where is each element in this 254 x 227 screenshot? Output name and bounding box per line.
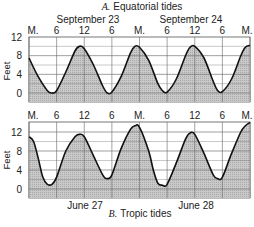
date-label: September 24: [160, 14, 223, 25]
date-label: June 27: [67, 200, 103, 211]
chart-a-title: A.Equatorial tides: [101, 1, 183, 12]
chart-b-y-label: Feet: [1, 150, 12, 169]
y-tick-label: 0: [16, 184, 22, 195]
x-tick-label: 6: [164, 25, 170, 36]
x-tick-label: 6: [54, 110, 60, 121]
date-label: September 23: [57, 14, 120, 25]
chart-b-tropic: M.6126M.6126M. 12840 Feet June 27June 28…: [1, 110, 253, 219]
chart-a-x-tick-labels: M.6126M.6126M.: [27, 25, 252, 36]
chart-b-title: B.Tropic tides: [109, 208, 172, 219]
x-tick-label: M.: [134, 110, 145, 121]
chart-b-plot-area: [29, 122, 250, 198]
x-tick-label: M.: [241, 110, 252, 121]
chart-a-equatorial: A.Equatorial tides September 23September…: [1, 1, 253, 102]
x-tick-label: M.: [27, 110, 38, 121]
y-tick-label: 12: [11, 32, 23, 43]
x-tick-label: 6: [220, 110, 226, 121]
x-tick-label: 12: [189, 25, 201, 36]
y-tick-label: 8: [16, 50, 22, 61]
y-tick-label: 0: [16, 88, 22, 99]
x-tick-label: 6: [164, 110, 170, 121]
x-tick-label: M.: [27, 25, 38, 36]
date-label: June 28: [178, 200, 214, 211]
x-tick-label: 6: [220, 25, 226, 36]
chart-a-y-label: Feet: [1, 61, 12, 80]
chart-a-date-labels: September 23September 24: [57, 14, 223, 25]
x-tick-label: 12: [189, 110, 201, 121]
chart-b-x-tick-labels: M.6126M.6126M.: [27, 110, 252, 121]
x-tick-label: M.: [134, 25, 145, 36]
x-tick-label: 6: [109, 25, 115, 36]
x-tick-label: 6: [54, 25, 60, 36]
x-tick-label: 12: [79, 110, 91, 121]
y-tick-label: 4: [16, 69, 22, 80]
y-tick-label: 4: [16, 165, 22, 176]
tide-charts: A.Equatorial tides September 23September…: [0, 0, 254, 227]
x-tick-label: M.: [241, 25, 252, 36]
chart-a-plot-area: [29, 37, 250, 102]
y-tick-label: 8: [16, 146, 22, 157]
x-tick-label: 12: [79, 25, 91, 36]
x-tick-label: 6: [109, 110, 115, 121]
chart-b-y-tick-labels: 12840: [11, 127, 23, 195]
chart-a-y-tick-labels: 12840: [11, 32, 23, 99]
y-tick-label: 12: [11, 127, 23, 138]
